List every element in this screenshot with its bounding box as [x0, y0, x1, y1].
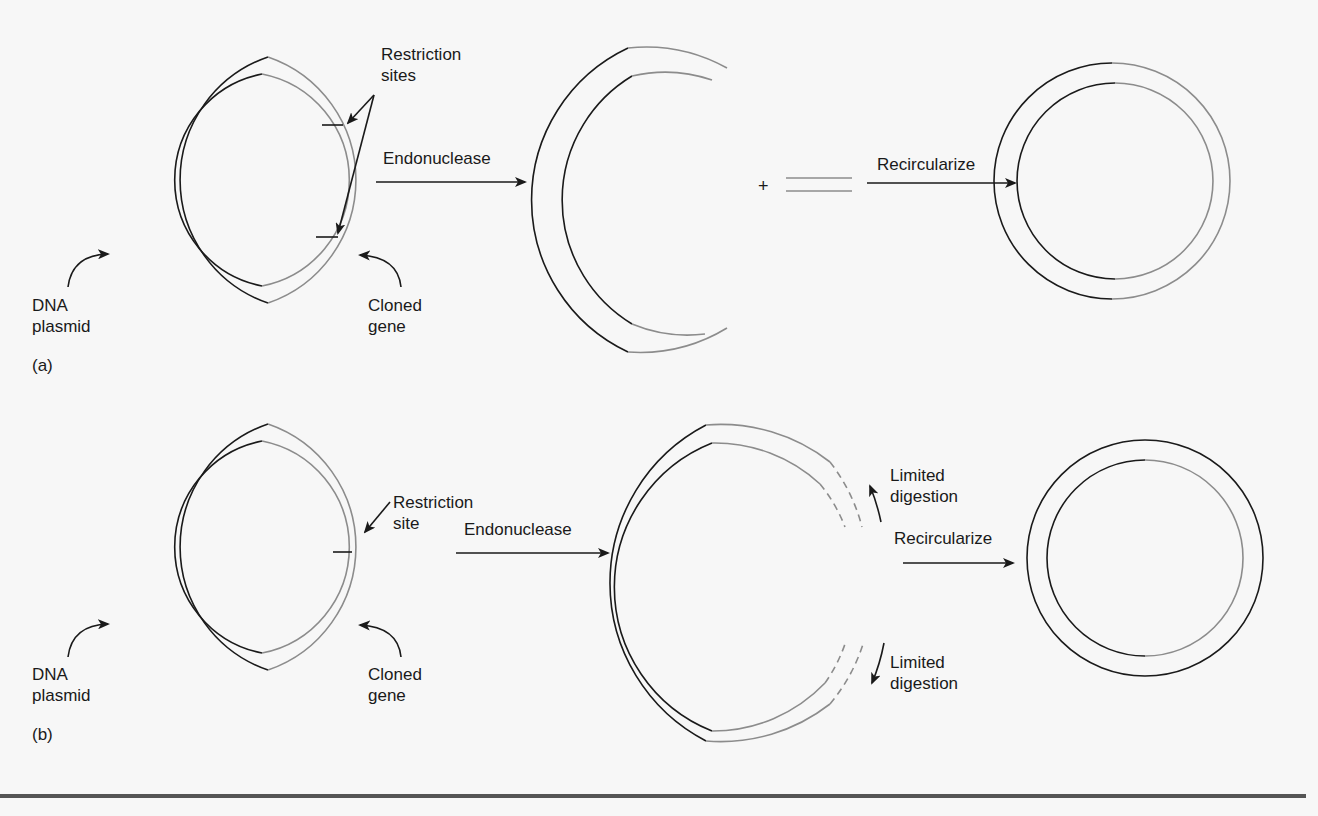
panel-a-tag: (a)	[32, 356, 53, 376]
plasmid-pointer-arrow-a	[68, 254, 108, 287]
restriction-sites-arrows-a	[338, 95, 374, 233]
limited-digestion-bottom-line1: Limited	[890, 652, 958, 673]
recircularize-label-a: Recircularize	[877, 154, 975, 175]
cloned-gene-label-b-line2: gene	[368, 685, 422, 706]
panel-a	[68, 47, 1230, 352]
limited-digestion-top-line1: Limited	[890, 465, 958, 486]
recircularize-label-b: Recircularize	[894, 528, 992, 549]
plasmid-a-original	[175, 57, 356, 303]
limited-digestion-top-line2: digestion	[890, 486, 958, 507]
dna-plasmid-label-a-line1: DNA	[32, 295, 91, 316]
dna-plasmid-label-b: DNA plasmid	[32, 664, 91, 706]
plus-sign: +	[758, 176, 769, 197]
digestion-arrow-top	[870, 486, 881, 522]
cut-plasmid-fragment-a	[532, 47, 727, 352]
restriction-site-label: Restriction site	[393, 492, 473, 534]
cloned-gene-label-b-line1: Cloned	[368, 664, 422, 685]
plasmid-diagram	[0, 0, 1318, 816]
bottom-rule	[0, 794, 1306, 798]
restriction-site-label-line1: Restriction	[393, 492, 473, 513]
cloned-gene-label-a-line2: gene	[368, 316, 422, 337]
plasmid-pointer-arrow-b	[68, 624, 108, 657]
digestion-arrow-bottom	[872, 643, 884, 683]
restriction-site-arrow-b	[365, 502, 390, 532]
dna-plasmid-label-a: DNA plasmid	[32, 295, 91, 337]
recircularized-plasmid-a	[994, 63, 1230, 299]
restriction-sites-label-line2: sites	[381, 65, 461, 86]
restriction-sites-label-line1: Restriction	[381, 44, 461, 65]
cloned-gene-label-a: Cloned gene	[368, 295, 422, 337]
restriction-site-label-line2: site	[393, 513, 473, 534]
panel-b-tag: (b)	[32, 725, 53, 745]
restriction-sites-label: Restriction sites	[381, 44, 461, 86]
gene-pointer-arrow-a	[360, 255, 401, 287]
panel-b	[68, 424, 1263, 742]
dna-plasmid-label-a-line2: plasmid	[32, 316, 91, 337]
endonuclease-label-a: Endonuclease	[383, 148, 491, 169]
dna-plasmid-label-b-line1: DNA	[32, 664, 91, 685]
excised-gene-fragment	[786, 178, 852, 191]
limited-digestion-bottom-line2: digestion	[890, 673, 958, 694]
limited-digestion-label-top: Limited digestion	[890, 465, 958, 507]
dna-plasmid-label-b-line2: plasmid	[32, 685, 91, 706]
cloned-gene-label-b: Cloned gene	[368, 664, 422, 706]
plasmid-b-original	[175, 424, 356, 670]
cloned-gene-label-a-line1: Cloned	[368, 295, 422, 316]
gene-pointer-arrow-b	[360, 625, 401, 657]
opened-plasmid-b	[610, 424, 864, 741]
endonuclease-label-b: Endonuclease	[464, 519, 572, 540]
limited-digestion-label-bottom: Limited digestion	[890, 652, 958, 694]
recircularized-plasmid-b	[1027, 440, 1263, 676]
